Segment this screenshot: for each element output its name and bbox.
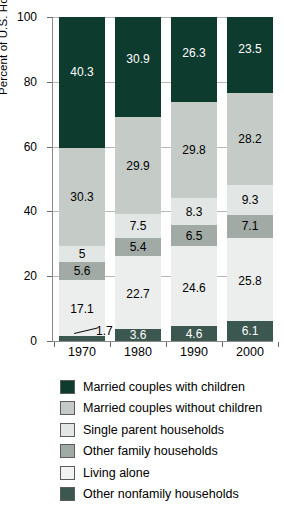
bar-segment[interactable]: 7.1 — [227, 215, 273, 238]
bar-segment-value-label: 3.6 — [115, 329, 161, 341]
legend-item[interactable]: Living alone — [60, 462, 280, 484]
bar-segment-value-label: 24.6 — [171, 282, 217, 294]
bar-segment[interactable]: 28.2 — [227, 93, 273, 184]
bar-segment[interactable]: 24.6 — [171, 246, 217, 326]
x-axis-tick-label-1990: 1990 — [166, 345, 222, 359]
bar-segment[interactable]: 6.5 — [171, 225, 217, 246]
bar-segment-value-label: 22.7 — [115, 288, 161, 300]
bar-segment-value-label: 6.1 — [227, 325, 273, 337]
bar-segment[interactable]: 40.3 — [59, 17, 105, 148]
bar-segment[interactable]: 6.1 — [227, 321, 273, 341]
x-axis-tick-label-2000: 2000 — [222, 345, 278, 359]
bar-segment-value-label: 7.1 — [227, 220, 273, 232]
bar-segment-value-label: 30.9 — [115, 53, 161, 65]
bar-1970[interactable]: 40.330.355.617.1 — [59, 17, 105, 341]
bar-group: 40.330.355.617.130.929.97.55.422.73.626.… — [52, 17, 272, 342]
legend-item[interactable]: Single parent households — [60, 419, 280, 441]
bar-segment[interactable]: 3.6 — [115, 329, 161, 341]
x-axis-tick-labels: 1970198019902000 — [52, 345, 273, 361]
bar-segment-value-label: 8.3 — [171, 206, 217, 218]
bar-segment[interactable]: 30.3 — [59, 148, 105, 246]
stacked-bar-chart-figure: 020406080100 Percent of U.S. Households … — [0, 0, 284, 511]
bar-segment-value-label: 7.5 — [115, 220, 161, 232]
bar-segment[interactable]: 29.8 — [171, 102, 217, 199]
legend-item-label: Single parent households — [83, 423, 224, 437]
bar-segment[interactable]: 7.5 — [115, 214, 161, 238]
y-axis-tick-label: 40 — [0, 205, 46, 217]
bar-segment-value-label: 6.5 — [171, 230, 217, 242]
bar-segment-value-label: 5 — [59, 248, 105, 260]
bar-segment[interactable]: 22.7 — [115, 256, 161, 330]
y-axis-tick-label: 0 — [0, 335, 46, 347]
legend-item-label: Other nonfamily households — [83, 487, 239, 501]
legend-color-swatch — [60, 487, 75, 501]
bar-segment-value-label: 25.8 — [227, 275, 273, 287]
legend-item[interactable]: Married couples with children — [60, 376, 280, 398]
bar-segment[interactable]: 5.6 — [59, 262, 105, 280]
bar-segment[interactable]: 4.6 — [171, 326, 217, 341]
legend-color-swatch — [60, 401, 75, 415]
x-axis-tick-label-1970: 1970 — [54, 345, 110, 359]
chart-legend: Married couples with childrenMarried cou… — [60, 376, 280, 505]
bar-segment-value-label: 30.3 — [59, 191, 105, 203]
bar-segment[interactable]: 25.8 — [227, 238, 273, 322]
bar-segment-value-label: 29.8 — [171, 144, 217, 156]
legend-item[interactable]: Other nonfamily households — [60, 484, 280, 506]
bar-segment[interactable]: 29.9 — [115, 117, 161, 214]
bar-segment[interactable]: 8.3 — [171, 198, 217, 225]
legend-color-swatch — [60, 380, 75, 394]
legend-item[interactable]: Married couples without children — [60, 398, 280, 420]
bar-segment[interactable]: 9.3 — [227, 185, 273, 215]
bar-segment-value-label: 40.3 — [59, 66, 105, 78]
y-axis-tick-label: 20 — [0, 270, 46, 282]
bar-segment[interactable]: 26.3 — [171, 17, 217, 102]
plot-area: 40.330.355.617.130.929.97.55.422.73.626.… — [52, 17, 272, 341]
bar-segment-value-label: 5.4 — [115, 241, 161, 253]
legend-item[interactable]: Other family households — [60, 441, 280, 463]
bar-segment[interactable]: 30.9 — [115, 17, 161, 117]
legend-item-label: Living alone — [83, 466, 150, 480]
bar-2000[interactable]: 23.528.29.37.125.86.1 — [227, 17, 273, 341]
x-axis-tick-label-1980: 1980 — [110, 345, 166, 359]
bar-segment-value-label: 17.1 — [59, 303, 105, 315]
callout-value-label: 1.7 — [96, 325, 113, 337]
legend-item-label: Married couples without children — [83, 401, 262, 415]
bar-segment-value-label: 9.3 — [227, 194, 273, 206]
x-axis-tick-mark — [278, 342, 279, 347]
bar-segment-value-label: 26.3 — [171, 47, 217, 59]
legend-color-swatch — [60, 444, 75, 458]
bar-segment-value-label: 5.6 — [59, 265, 105, 277]
bar-1990[interactable]: 26.329.88.36.524.64.6 — [171, 17, 217, 341]
bar-segment[interactable]: 23.5 — [227, 17, 273, 93]
bar-segment-value-label: 29.9 — [115, 160, 161, 172]
y-axis-title: Percent of U.S. Households — [0, 0, 9, 95]
bar-1980[interactable]: 30.929.97.55.422.73.6 — [115, 17, 161, 341]
legend-item-label: Married couples with children — [83, 380, 245, 394]
bar-segment[interactable]: 5.4 — [115, 238, 161, 255]
bar-segment[interactable]: 5 — [59, 246, 105, 262]
bar-segment-value-label: 28.2 — [227, 133, 273, 145]
y-axis-tick-label: 60 — [0, 141, 46, 153]
legend-color-swatch — [60, 466, 75, 480]
bar-segment-value-label: 4.6 — [171, 328, 217, 340]
legend-item-label: Other family households — [83, 444, 218, 458]
legend-color-swatch — [60, 423, 75, 437]
bar-segment-value-label: 23.5 — [227, 43, 273, 55]
